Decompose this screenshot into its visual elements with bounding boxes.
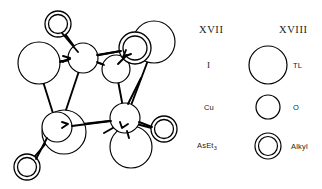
figure-root: XVII XVIII I Cu AsEt3 TL O Alkyl: [0, 0, 322, 189]
legend-left-label-iodine: I: [207, 60, 210, 70]
legend-symbol-double-ring: [255, 133, 281, 159]
asEt3-base: AsEt: [197, 141, 214, 150]
legend-right-label-alkyl: Alkyl: [291, 142, 308, 151]
legend-left-label-copper: Cu: [204, 103, 214, 112]
legend-symbol-large-circle: [249, 46, 287, 84]
legend-right-label-thallium: TL: [293, 61, 302, 70]
legend-right-label-oxygen: O: [293, 103, 299, 112]
legend-symbol-small-circle: [256, 95, 280, 119]
legend-left-label-asEt3: AsEt3: [197, 141, 217, 150]
legend-symbols: [0, 0, 322, 189]
column-heading-xviii: XVIII: [279, 24, 308, 35]
asEt3-subscript: 3: [214, 145, 217, 151]
column-heading-xvii: XVII: [199, 24, 224, 35]
